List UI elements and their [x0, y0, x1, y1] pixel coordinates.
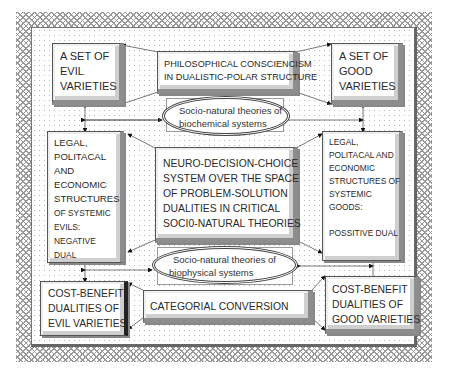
label-line: AND	[54, 164, 114, 178]
label-line: CATEGORIAL CONVERSION	[150, 299, 302, 314]
label-line: STRUCTURES OF	[329, 175, 393, 188]
label-line: POSSITIVE DUAL	[329, 227, 393, 240]
label-line: EVILS:	[54, 220, 114, 234]
philosophical-consciencism-box: PHILOSOPHICAL CONSCIENCISM IN DUALISTIC-…	[157, 51, 298, 94]
label-line	[329, 214, 393, 227]
systemic-goods-box: LEGAL, POLITACAL AND ECONOMIC STRUCTURES…	[322, 131, 403, 261]
label-line: ECONOMIC	[54, 178, 114, 192]
biochemical-systems-ellipse: Socio-natural theories of biochemical sy…	[162, 96, 290, 136]
label-line: DUAL	[54, 248, 114, 262]
label-line: biophysical systems	[169, 266, 295, 279]
label-line: ECONOMIC	[329, 162, 393, 175]
categorial-conversion-box: CATEGORIAL CONVERSION	[143, 290, 313, 323]
label-line: VARIETIES	[339, 79, 391, 94]
label-line: EVIL	[60, 64, 112, 79]
systemic-evils-box: LEGAL, POLITACAL AND ECONOMIC STRUCTURES…	[47, 131, 124, 263]
label-line: POLITACAL	[54, 150, 114, 164]
label-line: DUALITIES IN CRITICAL	[163, 201, 286, 216]
label-line: biochemical systems	[179, 117, 287, 130]
label-line: DUALITIES OF	[48, 301, 117, 316]
label-line: SYSTEM OVER THE SPACE	[163, 171, 286, 186]
good-cost-benefit-box: COST-BENEFIT DUALITIES OF GOOD VARIETIES	[325, 276, 419, 334]
label-line: COST-BENEFIT	[48, 286, 117, 301]
label-line: OF PROBLEM-SOLUTION	[163, 186, 286, 201]
label-line: EVIL VARIETIES	[48, 316, 117, 331]
label-line: A SET OF	[339, 49, 391, 64]
label-line: GOODS:	[329, 201, 393, 214]
label-line: OF SYSTEMIC	[54, 206, 114, 220]
label-line: DUALITIES OF	[332, 297, 408, 312]
good-varieties-box: A SET OF GOOD VARIETIES	[331, 43, 403, 105]
label-line: LEGAL,	[329, 136, 393, 149]
neuro-decision-choice-box: NEURO-DECISION-CHOICE SYSTEM OVER THE SP…	[155, 147, 298, 243]
label-line: Socio-natural theories of	[179, 104, 287, 117]
label-line: LEGAL,	[54, 136, 114, 150]
evil-cost-benefit-box: COST-BENEFIT DUALITIES OF EVIL VARIETIES	[40, 281, 128, 336]
evil-varieties-box: A SET OF EVIL VARIETIES	[52, 43, 124, 105]
label-line: Socio-natural theories of	[169, 253, 295, 266]
label-line: A SET OF	[60, 49, 112, 64]
label-line: PHILOSOPHICAL CONSCIENCISM	[164, 58, 287, 71]
label-line: GOOD VARIETIES	[332, 312, 408, 327]
label-line: POLITACAL AND	[329, 149, 393, 162]
label-line: SYSTEMIC	[329, 188, 393, 201]
label-line: NEGATIVE	[54, 234, 114, 248]
label-line: STRUCTURES	[54, 192, 114, 206]
biophysical-systems-ellipse: Socio-natural theories of biophysical sy…	[152, 246, 298, 284]
label-line: COST-BENEFIT	[332, 282, 408, 297]
label-line: GOOD	[339, 64, 391, 79]
label-line: SOCI0-NATURAL THEORIES	[163, 216, 286, 231]
label-line: IN DUALISTIC-POLAR STRUCTURE	[164, 71, 287, 84]
label-line: VARIETIES	[60, 79, 112, 94]
label-line: NEURO-DECISION-CHOICE	[163, 156, 286, 171]
